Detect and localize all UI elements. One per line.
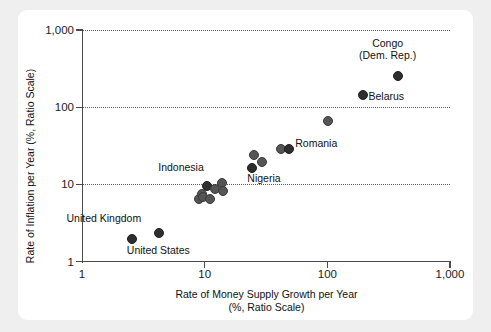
y-axis-tick-label: 100 <box>8 101 74 113</box>
x-axis-title: Rate of Money Supply Growth per Year (%,… <box>82 288 451 314</box>
data-point <box>284 144 294 154</box>
data-point <box>218 186 228 196</box>
y-axis-title: Rate of Inflation per Year (%, Ratio Sca… <box>24 50 36 282</box>
x-axis-tick-label: 1,000 <box>420 268 480 280</box>
y-axis-tick-label: 1,000 <box>8 24 74 36</box>
x-axis-tick-label: 1 <box>52 268 112 280</box>
x-axis-tick-label: 100 <box>297 268 357 280</box>
data-point <box>127 234 137 244</box>
y-axis-tick <box>76 107 83 108</box>
gridline <box>82 107 450 108</box>
data-point-label: United States <box>127 244 190 256</box>
y-axis-tick-label: 10 <box>8 178 74 190</box>
data-point-label: Belarus <box>369 90 405 102</box>
data-point-label: Romania <box>295 137 337 149</box>
gridline <box>82 30 450 31</box>
y-axis-tick <box>76 184 83 185</box>
data-point-label: Congo(Dem. Rep.) <box>359 37 416 61</box>
x-axis-title-line2: (%, Ratio Scale) <box>82 301 451 314</box>
data-point-label: Indonesia <box>158 161 204 173</box>
x-axis-tick <box>327 261 328 268</box>
data-point-label: United Kingdom <box>66 212 141 224</box>
data-point <box>205 194 215 204</box>
x-axis-tick <box>449 261 450 268</box>
y-axis-tick <box>76 261 83 262</box>
data-point <box>323 116 333 126</box>
data-point-label: Nigeria <box>247 172 280 184</box>
data-point <box>393 71 403 81</box>
x-axis-tick-label: 10 <box>175 268 235 280</box>
x-axis-tick <box>204 261 205 268</box>
data-point <box>257 157 267 167</box>
y-axis-tick-label: 1 <box>8 256 74 268</box>
plot-area: United StatesUnited KingdomIndonesiaNige… <box>82 30 450 262</box>
figure-background: Rate of Inflation per Year (%, Ratio Sca… <box>0 0 491 332</box>
data-point <box>358 90 368 100</box>
data-point <box>154 228 164 238</box>
gridline <box>82 184 450 185</box>
x-axis-title-line1: Rate of Money Supply Growth per Year <box>82 288 451 301</box>
y-axis-tick <box>76 29 83 30</box>
